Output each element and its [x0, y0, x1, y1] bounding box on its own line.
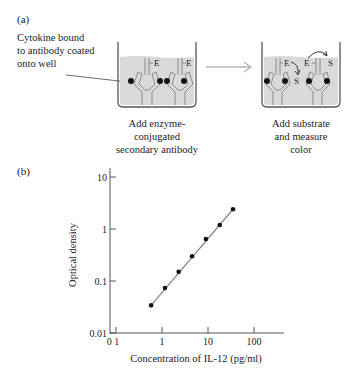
- standard-curve-chart: 0.010.11100 1110100 Optical density Conc…: [0, 160, 346, 373]
- substrate-label: S: [294, 76, 299, 86]
- well-1: E E: [118, 42, 196, 107]
- y-tick-label: 1: [102, 224, 107, 235]
- data-point: [149, 303, 154, 308]
- well-2: E S E S: [262, 42, 340, 107]
- enzyme-label: E: [284, 58, 290, 68]
- chart-axes: 0.010.11100 1110100: [90, 168, 285, 347]
- y-tick-label: 0.1: [95, 276, 108, 287]
- data-point: [176, 270, 181, 275]
- enzyme-label: E: [304, 58, 310, 68]
- data-point: [190, 254, 195, 259]
- x-tick-label: 1: [160, 336, 165, 347]
- x-tick-label: 0 1: [107, 336, 120, 347]
- x-tick-label: 100: [247, 336, 262, 347]
- y-axis-label: Optical density: [67, 222, 78, 287]
- y-tick-label: 10: [97, 172, 107, 183]
- enzyme-label: E: [186, 58, 192, 68]
- leader-line: [66, 75, 128, 82]
- data-points: [149, 207, 236, 308]
- y-tick-label: 0.01: [90, 328, 108, 339]
- well-1-caption: Add enzyme- conjugated secondary antibod…: [107, 117, 207, 156]
- data-point: [231, 207, 236, 212]
- data-point: [204, 237, 209, 242]
- substrate-label: S: [328, 58, 333, 68]
- x-tick-label: 10: [203, 336, 213, 347]
- step-arrow-icon: [206, 62, 251, 72]
- data-point: [217, 223, 222, 228]
- well-2-caption: Add substrate and measure color: [256, 117, 346, 156]
- x-axis-label: Concentration of IL-12 (pg/ml): [130, 353, 262, 365]
- data-point: [163, 286, 168, 291]
- enzyme-label: E: [154, 58, 160, 68]
